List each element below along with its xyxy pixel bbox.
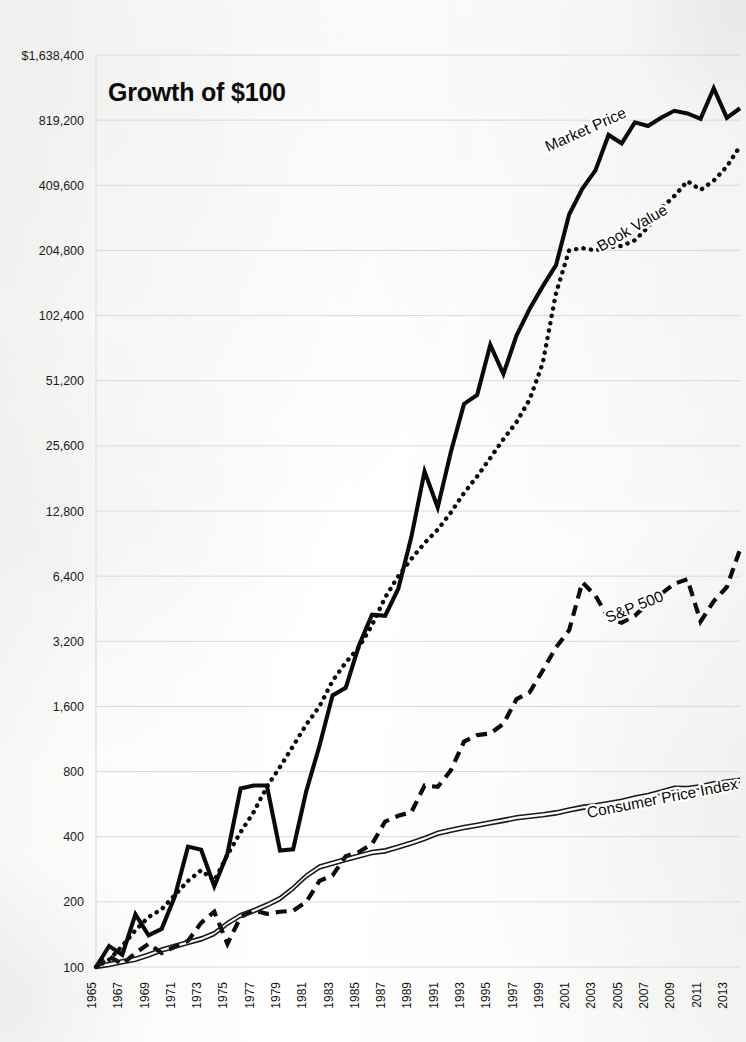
x-axis-tick-label-0: 1965 <box>85 982 99 1009</box>
y-axis-tick-label-14: 100 <box>63 961 84 975</box>
y-axis-tick-label-13: 200 <box>63 895 84 909</box>
x-axis-tick-label-2: 1969 <box>138 982 152 1009</box>
x-axis-tick-label-12: 1989 <box>400 982 414 1009</box>
x-axis-tick-label-4: 1973 <box>190 982 204 1009</box>
series-label-sp500: S&P 500 <box>603 587 666 626</box>
x-axis-tick-label-22: 2009 <box>663 982 677 1009</box>
x-axis-tick-label-14: 1993 <box>453 982 467 1009</box>
x-axis-tick-label-15: 1995 <box>479 982 493 1009</box>
y-axis-tick-label-9: 3,200 <box>53 635 84 649</box>
chart-title: Growth of $100 <box>108 78 286 106</box>
x-axis-tick-label-21: 2007 <box>637 982 651 1009</box>
y-axis-tick-label-5: 51,200 <box>46 374 84 388</box>
x-axis-tick-label-10: 1985 <box>348 982 362 1009</box>
y-axis-tick-label-10: 1,600 <box>53 700 84 714</box>
x-axis-tick-label-13: 1991 <box>427 982 441 1009</box>
x-axis-tick-label-3: 1971 <box>164 982 178 1009</box>
series-label-consumer-price-index: Consumer Price Index <box>585 775 739 821</box>
y-axis-tick-label-2: 409,600 <box>39 179 84 193</box>
x-axis-tick-label-1: 1967 <box>111 982 125 1009</box>
x-axis-tick-label-24: 2013 <box>716 982 730 1009</box>
x-axis-tick-label-19: 2003 <box>584 982 598 1009</box>
x-axis-tick-label-11: 1987 <box>374 982 388 1009</box>
chart-page: $1,638,400819,200409,600204,800102,40051… <box>0 0 746 1042</box>
x-axis-tick-label-18: 2001 <box>558 982 572 1009</box>
x-axis-tick-label-9: 1983 <box>322 982 336 1009</box>
y-axis-tick-label-11: 800 <box>63 765 84 779</box>
x-axis-tick-label-20: 2005 <box>611 982 625 1009</box>
series-label-market-price: Market Price <box>542 104 628 155</box>
x-axis-tick-label-17: 1999 <box>532 982 546 1009</box>
y-axis-tick-label-4: 102,400 <box>39 309 84 323</box>
y-axis-tick-label-6: 25,600 <box>46 439 84 453</box>
x-axis-tick-label-5: 1975 <box>216 982 230 1009</box>
x-axis-labels: 1965196719691971197319751977197919811983… <box>85 982 730 1009</box>
y-axis-tick-label-0: $1,638,400 <box>21 49 84 63</box>
x-axis-tick-label-6: 1977 <box>243 982 257 1009</box>
x-axis-tick-label-16: 1997 <box>506 982 520 1009</box>
y-axis-tick-label-7: 12,800 <box>46 505 84 519</box>
series-sp500 <box>96 549 740 967</box>
series-book-value <box>96 146 740 967</box>
y-axis-tick-label-3: 204,800 <box>39 244 84 258</box>
series-label-book-value: Book Value <box>594 201 670 255</box>
y-axis-labels: $1,638,400819,200409,600204,800102,40051… <box>21 49 84 975</box>
growth-of-100-chart: $1,638,400819,200409,600204,800102,40051… <box>0 0 746 1042</box>
y-axis-tick-label-8: 6,400 <box>53 570 84 584</box>
y-axis-tick-label-12: 400 <box>63 830 84 844</box>
x-axis-tick-label-23: 2011 <box>690 982 704 1008</box>
x-axis-tick-label-7: 1979 <box>269 982 283 1009</box>
x-axis-tick-label-8: 1981 <box>295 982 309 1009</box>
y-axis-tick-label-1: 819,200 <box>39 114 84 128</box>
